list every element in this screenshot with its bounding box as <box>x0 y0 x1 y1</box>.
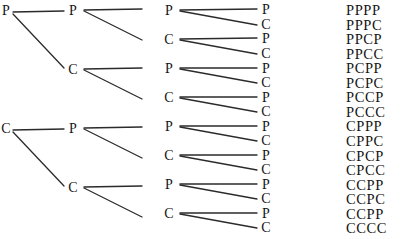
tree-branch-line <box>13 11 64 12</box>
outcome-item: PCCP <box>346 90 384 105</box>
outcome-item: CCCC <box>346 221 387 236</box>
tree-branch-line <box>180 214 257 228</box>
tree-node-stage-4-9-p: P <box>262 120 270 134</box>
tree-node-stage-4-11-p: P <box>262 149 270 163</box>
outcome-item: CPCC <box>346 163 385 178</box>
tree-branch-line <box>84 129 142 158</box>
tree-node-stage-1-1-p: P <box>2 4 10 18</box>
tree-node-stage-2-1-p: P <box>69 4 77 18</box>
tree-branch-line <box>180 38 257 39</box>
probability-tree-diagram: PCPCPCPCPCPCPCPCPCPCPCPCPCPCPC PPPPPPPCP… <box>0 0 413 239</box>
tree-node-stage-3-6-c: C <box>164 149 174 163</box>
outcome-item: CPPP <box>346 119 382 134</box>
tree-node-stage-4-10-c: C <box>261 134 271 148</box>
tree-branch-line <box>13 132 64 186</box>
tree-branch-line <box>84 186 142 187</box>
tree-node-stage-3-7-p: P <box>165 178 173 192</box>
tree-node-stage-4-14-c: C <box>261 192 271 206</box>
outcome-item: PCPC <box>346 76 384 91</box>
tree-node-stage-4-8-c: C <box>261 105 271 119</box>
outcome-item: CPCP <box>346 148 384 163</box>
outcome-item: PCCC <box>346 105 385 120</box>
tree-branch-line <box>180 156 257 170</box>
outcome-item: CCPP <box>346 177 384 192</box>
outcome-item: CCPP <box>346 206 384 221</box>
outcome-item: CPPC <box>346 134 384 149</box>
tree-node-stage-2-3-p: P <box>69 122 77 136</box>
outcome-item: PPCC <box>346 46 384 61</box>
tree-branch-line <box>180 9 257 10</box>
outcome-item: CCPC <box>346 192 385 207</box>
tree-node-stage-4-3-p: P <box>262 32 270 46</box>
tree-node-stage-3-5-p: P <box>165 120 173 134</box>
tree-branch-line <box>84 9 142 10</box>
tree-node-stage-4-1-p: P <box>262 3 270 17</box>
tree-branch-line <box>180 11 257 25</box>
tree-branch-line <box>180 127 257 141</box>
tree-node-stage-3-8-c: C <box>164 207 174 221</box>
tree-node-stage-4-15-p: P <box>262 207 270 221</box>
tree-branch-line <box>84 188 142 217</box>
tree-branch-line <box>84 127 142 128</box>
outcome-item: PPCP <box>346 32 382 47</box>
tree-branch-line <box>180 40 257 54</box>
tree-node-stage-2-4-c: C <box>68 181 78 195</box>
tree-branch-line <box>84 11 142 40</box>
tree-node-stage-4-12-c: C <box>261 163 271 177</box>
tree-branch-line <box>180 98 257 112</box>
tree-node-stage-3-1-p: P <box>165 4 173 18</box>
tree-node-stage-4-5-p: P <box>262 62 270 76</box>
tree-node-stage-3-4-c: C <box>164 91 174 105</box>
tree-node-stage-4-13-p: P <box>262 178 270 192</box>
outcome-item: PCPP <box>346 61 382 76</box>
tree-node-stage-1-2-c: C <box>1 122 11 136</box>
tree-node-stage-4-2-c: C <box>261 18 271 32</box>
tree-node-stage-4-4-c: C <box>261 47 271 61</box>
tree-node-stage-3-2-c: C <box>164 33 174 47</box>
tree-branch-line <box>84 68 142 69</box>
tree-node-stage-4-7-p: P <box>262 91 270 105</box>
tree-node-stage-2-2-c: C <box>68 63 78 77</box>
tree-node-stage-4-16-c: C <box>261 221 271 235</box>
tree-branch-line <box>13 129 64 130</box>
tree-branch-line <box>13 14 64 68</box>
outcome-item: PPPC <box>346 17 382 32</box>
tree-branch-line <box>180 185 257 199</box>
tree-branch-line <box>180 69 257 83</box>
outcome-item: PPPP <box>346 3 381 18</box>
tree-branch-line <box>84 70 142 99</box>
tree-node-stage-4-6-c: C <box>261 76 271 90</box>
tree-node-stage-3-3-p: P <box>165 62 173 76</box>
